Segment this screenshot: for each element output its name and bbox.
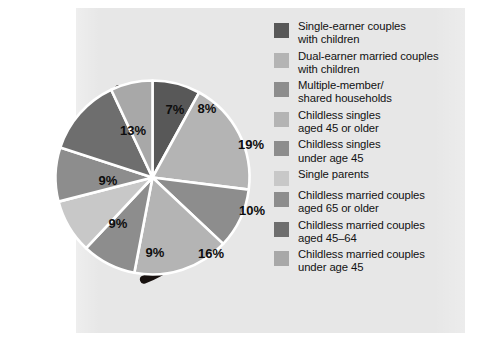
- legend-item[interactable]: Childless married couples aged 65 or old…: [274, 189, 464, 216]
- legend-item[interactable]: Single parents: [274, 168, 464, 186]
- legend-color-swatch: [274, 141, 289, 156]
- legend-color-swatch: [274, 192, 289, 207]
- legend-item-label: Single parents: [298, 168, 369, 181]
- legend-color-swatch: [274, 23, 289, 38]
- legend: Single-earner couples with childrenDual-…: [274, 20, 464, 278]
- legend-item-label: Childless married couples aged 45–64: [298, 219, 425, 246]
- legend-item[interactable]: Multiple-member/ shared households: [274, 79, 464, 106]
- legend-color-swatch: [274, 112, 289, 127]
- legend-item-label: Childless married couples under age 45: [298, 248, 425, 275]
- legend-color-swatch: [274, 82, 289, 97]
- legend-color-swatch: [274, 53, 289, 68]
- pie-chart: 8%19%10%16%9%9%9%13%7%: [45, 70, 260, 285]
- pie-slice-label: 9%: [146, 245, 165, 260]
- legend-item[interactable]: Single-earner couples with children: [274, 20, 464, 47]
- legend-item[interactable]: Childless singles aged 45 or older: [274, 109, 464, 136]
- pie-slice-label: 9%: [99, 173, 118, 188]
- legend-item[interactable]: Childless singles under age 45: [274, 138, 464, 165]
- legend-item[interactable]: Dual-earner married couples with childre…: [274, 50, 464, 77]
- legend-item-label: Single-earner couples with children: [298, 20, 406, 47]
- legend-color-swatch: [274, 222, 289, 237]
- pie-slice-label: 8%: [198, 101, 217, 116]
- legend-item[interactable]: Childless married couples aged 45–64: [274, 219, 464, 246]
- figure-root: 8%19%10%16%9%9%9%13%7% Single-earner cou…: [0, 0, 490, 353]
- pie-slice-label: 10%: [239, 203, 265, 218]
- legend-item[interactable]: Childless married couples under age 45: [274, 248, 464, 275]
- pie-slice-label: 9%: [109, 216, 128, 231]
- pie-slice-label: 13%: [120, 123, 146, 138]
- legend-item-label: Childless singles under age 45: [298, 138, 380, 165]
- legend-item-label: Childless married couples aged 65 or old…: [298, 189, 425, 216]
- legend-item-label: Dual-earner married couples with childre…: [298, 50, 438, 77]
- pie-slice-label: 16%: [198, 246, 224, 261]
- legend-item-label: Childless singles aged 45 or older: [298, 109, 380, 136]
- pie-slice-label: 19%: [238, 137, 264, 152]
- legend-item-label: Multiple-member/ shared households: [298, 79, 392, 106]
- pie-chart-svg: 8%19%10%16%9%9%9%13%7%: [45, 70, 260, 285]
- legend-color-swatch: [274, 251, 289, 266]
- pie-slice-label: 7%: [166, 102, 185, 117]
- legend-color-swatch: [274, 171, 289, 186]
